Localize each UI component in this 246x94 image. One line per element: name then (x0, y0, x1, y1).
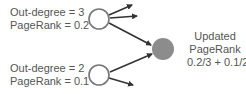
edge-top-out-2 (110, 16, 137, 18)
edge-bottom-out-1 (109, 78, 133, 85)
target-label-formula: 0.2/3 + 0.1/2 (187, 56, 243, 69)
out-degree-label: Out-degree = 2 (10, 62, 89, 75)
source-node-top (89, 9, 109, 29)
source-node-bottom-label: Out-degree = 2 PageRank = 0.1 (10, 62, 89, 88)
edge-top-out-1 (109, 5, 132, 15)
edge-bottom-to-target (110, 54, 152, 72)
target-node (152, 38, 174, 60)
target-label-line-1: Updated (187, 30, 243, 43)
source-node-top-label: Out-degree = 3 PageRank = 0.2 (10, 6, 89, 32)
edge-top-to-target (109, 23, 151, 45)
pagerank-label: PageRank = 0.2 (10, 19, 89, 32)
target-label-line-2: PageRank (187, 43, 243, 56)
out-degree-label: Out-degree = 3 (10, 6, 89, 19)
target-node-label: Updated PageRank 0.2/3 + 0.1/2 (187, 30, 243, 69)
source-node-bottom (89, 65, 109, 85)
pagerank-label: PageRank = 0.1 (10, 75, 89, 88)
